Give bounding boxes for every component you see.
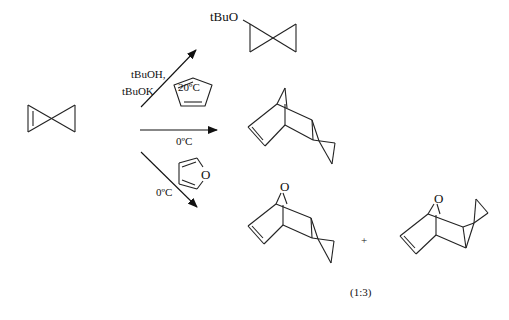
product1-oxygen: O (280, 179, 289, 194)
product-oxanorbornene-1 (248, 193, 334, 263)
reactant-spiropentene (28, 105, 75, 132)
condition-0c-bottom: 0ºC (156, 186, 172, 198)
furan-oxygen: O (201, 167, 210, 182)
product-tbuo-spiropentane (243, 20, 296, 52)
product-oxanorbornene-2 (400, 199, 488, 254)
reagent-tbuok: tBuOK (122, 85, 154, 97)
reagent-furan (179, 158, 203, 189)
product2-oxygen: O (434, 191, 443, 206)
condition-0c-middle: 0ºC (176, 135, 192, 147)
reagent-tbuoh: tBuOH, (131, 68, 166, 80)
product-ratio: (1:3) (350, 286, 372, 299)
label-tbuo: tBuO (210, 9, 238, 24)
product-norbornene-spiro (248, 88, 335, 164)
plus-sign: + (361, 234, 367, 246)
reaction-scheme: tBuOH, tBuOK 20ºC tBuO 0ºC (0, 0, 509, 320)
